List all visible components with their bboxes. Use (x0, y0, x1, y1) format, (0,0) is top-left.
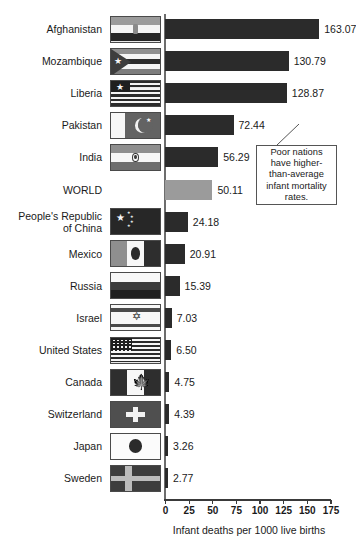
flag-canada-icon: 🍁 (110, 369, 161, 396)
row-label-mozambique: Mozambique (0, 56, 102, 68)
chart-row: United States6.50 (0, 335, 355, 365)
row-label-mexico: Mexico (0, 249, 102, 261)
callout-annotation: Poor nations have higher- than-average i… (256, 145, 337, 205)
axis-tick-175 (330, 500, 331, 504)
axis-tick-50 (212, 500, 213, 504)
row-label-switzerland: Switzerland (0, 409, 102, 421)
axis-tick-label-150: 150 (299, 505, 316, 516)
row-label-liberia: Liberia (0, 88, 102, 100)
bar-japan (165, 436, 168, 456)
bar-value-label: 24.18 (193, 212, 219, 232)
bar-pakistan (165, 115, 234, 135)
bar-value-label: 72.44 (239, 115, 265, 135)
chart-row: People's Republic of China★★★★★24.18 (0, 207, 355, 237)
bar-switzerland (165, 404, 169, 424)
bar-sweden (165, 468, 168, 488)
flag-liberia-icon: ★ (110, 80, 161, 107)
callout-text: Poor nations have higher- than-average i… (266, 147, 326, 203)
chart-row: Canada🍁4.75 (0, 367, 355, 397)
row-label-sweden: Sweden (0, 473, 102, 485)
chart-row: Israel✡7.03 (0, 303, 355, 333)
row-label-afghanistan: Afghanistan (0, 24, 102, 36)
flag-mexico-icon (110, 240, 161, 267)
axis-tick-0 (165, 500, 166, 504)
bar-value-label: 20.91 (190, 244, 216, 264)
row-label-people-s-republic-of-china: People's Republic of China (0, 211, 102, 234)
chart-row: Switzerland4.39 (0, 399, 355, 429)
chart-row: Mozambique★130.79 (0, 46, 355, 76)
bar-afghanistan (165, 19, 319, 39)
axis-tick-label-100: 100 (252, 505, 269, 516)
row-label-japan: Japan (0, 441, 102, 453)
axis-tick-25 (189, 500, 190, 504)
bar-value-label: 4.39 (174, 404, 194, 424)
flag-pakistan-icon: ★ (110, 112, 161, 139)
axis-tick-label-175: 175 (323, 505, 340, 516)
axis-tick-150 (307, 500, 308, 504)
bar-india (165, 147, 218, 167)
axis-tick-label-50: 50 (207, 505, 218, 516)
bar-value-label: 130.79 (294, 51, 326, 71)
flag-switzerland-icon (110, 401, 161, 428)
row-label-russia: Russia (0, 281, 102, 293)
bar-people-s-republic-of-china (165, 212, 188, 232)
axis-tick-75 (236, 500, 237, 504)
callout-line-5: rates. (285, 192, 308, 202)
row-label-pakistan: Pakistan (0, 120, 102, 132)
axis-tick-100 (259, 500, 260, 504)
chart-row: Japan3.26 (0, 431, 355, 461)
flag-israel-icon: ✡ (110, 304, 161, 331)
flag-russia-icon (110, 272, 161, 299)
axis-tick-label-0: 0 (163, 505, 169, 516)
flag-japan-icon (110, 433, 161, 460)
bar-value-label: 3.26 (173, 436, 193, 456)
chart-row: Mexico20.91 (0, 239, 355, 269)
bar-value-label: 4.75 (174, 372, 194, 392)
bar-value-label: 2.77 (173, 468, 193, 488)
bar-canada (165, 372, 169, 392)
bar-value-label: 6.50 (176, 340, 196, 360)
row-label-india: India (0, 152, 102, 164)
row-label-united-states: United States (0, 345, 102, 357)
bar-value-label: 7.03 (177, 308, 197, 328)
chart-row: Russia15.39 (0, 271, 355, 301)
chart-row: Afghanistan163.07 (0, 14, 355, 44)
row-label-israel: Israel (0, 313, 102, 325)
axis-tick-label-125: 125 (275, 505, 292, 516)
bar-israel (165, 308, 172, 328)
flag-china-icon: ★★★★★ (110, 208, 161, 235)
bar-united-states (165, 340, 171, 360)
axis-title: Infant deaths per 1000 live births (164, 524, 334, 536)
chart-row: Sweden2.77 (0, 463, 355, 493)
flag-india-icon (110, 144, 161, 171)
row-label-canada: Canada (0, 377, 102, 389)
bar-value-label: 128.87 (292, 83, 324, 103)
bar-russia (165, 276, 180, 296)
bar-value-label: 50.11 (217, 180, 243, 200)
bar-world (165, 180, 212, 200)
axis-tick-125 (283, 500, 284, 504)
flag-sweden-icon (110, 465, 161, 492)
bar-mexico (165, 244, 185, 264)
callout-line-4: infant mortality (266, 181, 326, 191)
callout-line-3: than-average (269, 169, 324, 179)
flag-afghanistan-icon (110, 16, 161, 43)
row-label-world: WORLD (0, 185, 102, 197)
bar-liberia (165, 83, 287, 103)
bar-value-label: 15.39 (185, 276, 211, 296)
axis-tick-label-75: 75 (231, 505, 242, 516)
bar-value-label: 56.29 (223, 147, 249, 167)
chart-row: Pakistan★72.44 (0, 110, 355, 140)
chart-row: Liberia★128.87 (0, 78, 355, 108)
bar-value-label: 163.07 (324, 19, 356, 39)
bar-mozambique (165, 51, 289, 71)
callout-line-1: Poor nations (270, 147, 322, 157)
callout-line-2: have higher- (271, 158, 323, 168)
flag-united-states-icon (110, 337, 161, 364)
axis-tick-label-25: 25 (184, 505, 195, 516)
flag-mozambique-icon: ★ (110, 48, 161, 75)
